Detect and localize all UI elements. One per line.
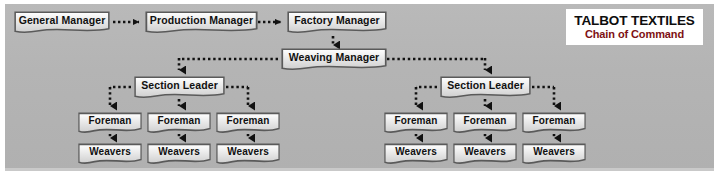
node-shape bbox=[78, 143, 142, 165]
node-shape bbox=[440, 76, 531, 99]
node-foreman-l1[interactable]: Foreman bbox=[78, 112, 142, 134]
node-shape bbox=[384, 112, 448, 134]
node-weavers-l1[interactable]: Weavers bbox=[78, 143, 142, 165]
title-plate: TALBOT TEXTILES Chain of Command bbox=[566, 9, 703, 45]
node-weavers-r1[interactable]: Weavers bbox=[384, 143, 448, 165]
node-shape bbox=[287, 11, 387, 34]
node-weavers-r2[interactable]: Weavers bbox=[453, 143, 517, 165]
node-foreman-l3[interactable]: Foreman bbox=[216, 112, 280, 134]
node-weavers-l3[interactable]: Weavers bbox=[216, 143, 280, 165]
node-factory-manager[interactable]: Factory Manager bbox=[287, 11, 387, 34]
node-shape bbox=[78, 112, 142, 134]
node-weaving-manager[interactable]: Weaving Manager bbox=[281, 48, 387, 71]
node-foreman-r3[interactable]: Foreman bbox=[522, 112, 586, 134]
node-shape bbox=[453, 143, 517, 165]
node-foreman-r2[interactable]: Foreman bbox=[453, 112, 517, 134]
node-production-manager[interactable]: Production Manager bbox=[145, 11, 258, 34]
node-shape bbox=[134, 76, 225, 99]
node-section-leader-right[interactable]: Section Leader bbox=[440, 76, 531, 99]
node-shape bbox=[147, 143, 211, 165]
node-shape bbox=[522, 112, 586, 134]
chart-subtitle: Chain of Command bbox=[585, 29, 684, 40]
node-shape bbox=[384, 143, 448, 165]
node-foreman-l2[interactable]: Foreman bbox=[147, 112, 211, 134]
node-weavers-l2[interactable]: Weavers bbox=[147, 143, 211, 165]
node-section-leader-left[interactable]: Section Leader bbox=[134, 76, 225, 99]
node-foreman-r1[interactable]: Foreman bbox=[384, 112, 448, 134]
node-shape bbox=[216, 143, 280, 165]
node-general-manager[interactable]: General Manager bbox=[14, 11, 110, 34]
node-shape bbox=[216, 112, 280, 134]
chart-title: TALBOT TEXTILES bbox=[574, 14, 695, 28]
org-chart-canvas: General Manager Production Manager Facto… bbox=[0, 0, 719, 178]
node-shape bbox=[522, 143, 586, 165]
node-shape bbox=[281, 48, 387, 71]
node-weavers-r3[interactable]: Weavers bbox=[522, 143, 586, 165]
node-shape bbox=[147, 112, 211, 134]
node-shape bbox=[453, 112, 517, 134]
node-shape bbox=[145, 11, 258, 34]
node-shape bbox=[14, 11, 110, 34]
